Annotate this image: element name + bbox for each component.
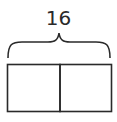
tape-part-2: [60, 65, 112, 112]
curly-brace: [8, 33, 110, 58]
tape-diagram: 16: [0, 0, 117, 122]
diagram-graphic: [0, 0, 117, 122]
tape-part-1: [8, 65, 61, 112]
